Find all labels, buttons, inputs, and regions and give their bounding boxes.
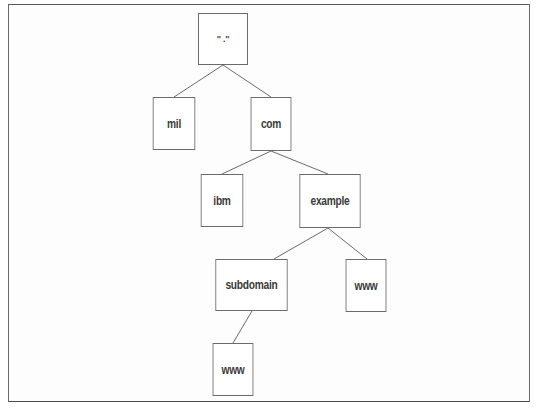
- edge-example-www: [328, 228, 367, 259]
- node-mil-label: mil: [167, 117, 181, 131]
- node-ibm-label: ibm: [213, 194, 230, 208]
- node-root-label: " .": [217, 35, 229, 44]
- node-subdomain: subdomain: [215, 259, 287, 311]
- node-com: com: [251, 97, 292, 151]
- node-subdomain-label: subdomain: [225, 278, 277, 292]
- edge-com-example: [271, 151, 328, 174]
- edge-root-com: [223, 65, 271, 97]
- node-www-subdomain-label: www: [221, 363, 244, 377]
- tree-edges: [0, 0, 539, 411]
- node-mil: mil: [153, 97, 196, 150]
- node-example: example: [299, 174, 360, 228]
- edge-subdomain-www: [233, 311, 252, 343]
- node-ibm: ibm: [201, 174, 244, 227]
- node-www-example: www: [346, 259, 387, 312]
- edge-root-mil: [174, 65, 223, 97]
- node-example-label: example: [310, 194, 349, 208]
- edge-example-subdomain: [274, 228, 328, 259]
- node-www-subdomain: www: [213, 343, 254, 396]
- edge-com-ibm: [222, 151, 271, 174]
- node-www-example-label: www: [354, 279, 377, 293]
- node-root: " .": [198, 13, 248, 65]
- node-com-label: com: [261, 117, 281, 131]
